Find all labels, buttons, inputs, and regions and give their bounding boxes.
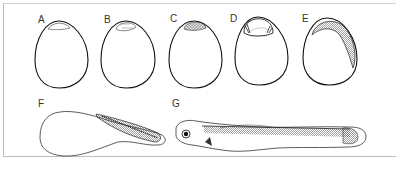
egg-b-icon xyxy=(101,21,155,88)
egg-e-icon xyxy=(303,18,357,85)
egg-c-icon xyxy=(169,21,222,88)
egg-a-icon xyxy=(35,21,88,88)
larva-g-icon xyxy=(176,120,366,151)
egg-d-icon xyxy=(235,17,288,85)
embryo-f-icon xyxy=(40,111,165,156)
